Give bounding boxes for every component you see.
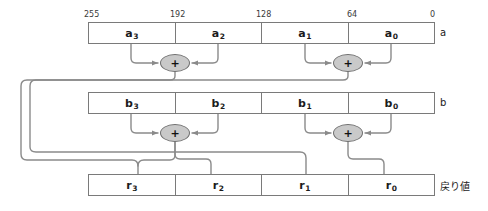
cell-a3: a3 bbox=[89, 23, 176, 43]
wire-b3-to-adder bbox=[131, 114, 158, 133]
cell-a2-base: a bbox=[212, 27, 220, 40]
cell-a1-sub: 1 bbox=[306, 32, 311, 41]
register-b: b3 b2 b1 b0 bbox=[88, 92, 435, 114]
register-r-label: 戻り値 bbox=[440, 178, 470, 193]
cell-r0-base: r bbox=[386, 179, 392, 192]
cell-a0-base: a bbox=[385, 27, 393, 40]
cell-a0-sub: 0 bbox=[393, 32, 398, 41]
cell-r3: r3 bbox=[89, 175, 176, 195]
cell-r1-base: r bbox=[299, 179, 305, 192]
cell-a3-base: a bbox=[125, 27, 133, 40]
bit-label-192: 192 bbox=[170, 10, 185, 19]
adder-a-low-symbol: + bbox=[343, 58, 352, 69]
cell-b2: b2 bbox=[176, 93, 263, 113]
cell-a2: a2 bbox=[176, 23, 263, 43]
cell-a1-base: a bbox=[298, 27, 306, 40]
bit-label-128: 128 bbox=[256, 10, 271, 19]
cell-b0: b0 bbox=[349, 93, 435, 113]
adder-b-low-symbol: + bbox=[343, 128, 352, 139]
wire-a3-to-adder bbox=[131, 44, 158, 63]
adder-b-high-symbol: + bbox=[170, 128, 179, 139]
adder-a-high: + bbox=[160, 54, 190, 72]
cell-r2-base: r bbox=[213, 179, 219, 192]
register-r: r3 r2 r1 r0 bbox=[88, 174, 435, 196]
cell-b2-sub: 2 bbox=[220, 102, 225, 111]
cell-r1: r1 bbox=[262, 175, 349, 195]
wire-a2-to-adder bbox=[192, 44, 218, 63]
cell-b1-base: b bbox=[298, 97, 306, 110]
cell-r3-base: r bbox=[126, 179, 132, 192]
cell-a3-sub: 3 bbox=[133, 32, 138, 41]
adder-b-high: + bbox=[160, 124, 190, 142]
wire-b2-to-adder bbox=[192, 114, 218, 133]
cell-r2: r2 bbox=[176, 175, 263, 195]
cell-r0-sub: 0 bbox=[392, 184, 397, 193]
register-a-label: a bbox=[440, 27, 446, 38]
cell-b0-sub: 0 bbox=[393, 102, 398, 111]
wire-adder-a-high-output-loop bbox=[21, 72, 175, 186]
cell-a2-sub: 2 bbox=[220, 32, 225, 41]
cell-a1: a1 bbox=[262, 23, 349, 43]
cell-r2-sub: 2 bbox=[219, 184, 224, 193]
cell-b3: b3 bbox=[89, 93, 176, 113]
cell-b0-base: b bbox=[385, 97, 393, 110]
adder-a-high-symbol: + bbox=[170, 58, 179, 69]
cell-b1-sub: 1 bbox=[307, 102, 312, 111]
cell-r0: r0 bbox=[349, 175, 435, 195]
cell-r1-sub: 1 bbox=[305, 184, 310, 193]
wire-adder-b-high-output bbox=[138, 142, 175, 166]
wire-b0-to-adder bbox=[365, 114, 391, 133]
adder-b-low: + bbox=[333, 124, 363, 142]
cell-a0: a0 bbox=[349, 23, 435, 43]
wire-b1-to-adder bbox=[305, 114, 331, 133]
cell-b3-sub: 3 bbox=[134, 102, 139, 111]
register-b-label: b bbox=[440, 97, 446, 108]
cell-b2-base: b bbox=[212, 97, 220, 110]
register-a: a3 a2 a1 a0 bbox=[88, 22, 435, 44]
bit-label-255: 255 bbox=[84, 10, 99, 19]
cell-b1: b1 bbox=[262, 93, 349, 113]
cell-b3-base: b bbox=[125, 97, 133, 110]
wire-a1-to-adder bbox=[305, 44, 331, 63]
bit-label-64: 64 bbox=[347, 10, 357, 19]
bit-label-0: 0 bbox=[430, 10, 435, 19]
diagram-canvas: 255 192 128 64 0 a3 a2 a1 a0 a b3 b2 b1 … bbox=[0, 0, 488, 211]
wire-a0-to-adder bbox=[365, 44, 391, 63]
adder-a-low: + bbox=[333, 54, 363, 72]
cell-r3-sub: 3 bbox=[132, 184, 137, 193]
